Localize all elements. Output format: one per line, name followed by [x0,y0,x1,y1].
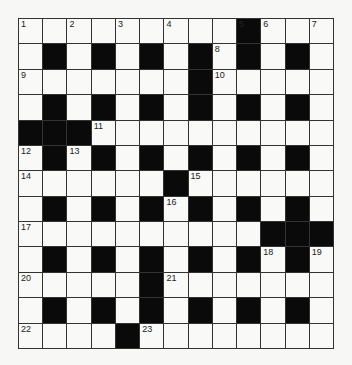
crossword-cell[interactable] [237,324,260,348]
crossword-cell[interactable] [286,121,309,145]
crossword-cell[interactable] [261,197,284,221]
crossword-cell[interactable] [67,247,90,271]
crossword-cell[interactable] [140,70,163,94]
crossword-cell[interactable] [116,197,139,221]
crossword-cell[interactable] [116,70,139,94]
crossword-cell[interactable] [286,324,309,348]
crossword-cell[interactable] [164,324,187,348]
crossword-cell[interactable] [213,247,236,271]
crossword-cell[interactable] [67,44,90,68]
crossword-cell[interactable] [237,70,260,94]
crossword-cell[interactable] [92,324,115,348]
crossword-cell[interactable]: 19 [310,247,333,271]
crossword-cell[interactable]: 2 [67,19,90,43]
crossword-cell[interactable] [43,171,66,195]
crossword-cell[interactable] [189,273,212,297]
crossword-cell[interactable] [261,171,284,195]
crossword-cell[interactable] [116,273,139,297]
crossword-cell[interactable] [116,44,139,68]
crossword-cell[interactable] [67,197,90,221]
crossword-cell[interactable]: 3 [116,19,139,43]
crossword-cell[interactable] [286,19,309,43]
crossword-cell[interactable] [67,171,90,195]
crossword-cell[interactable]: 12 [19,146,42,170]
crossword-cell[interactable] [92,19,115,43]
crossword-cell[interactable] [310,298,333,322]
crossword-cell[interactable] [19,247,42,271]
crossword-cell[interactable] [19,197,42,221]
crossword-cell[interactable] [43,70,66,94]
crossword-cell[interactable] [19,298,42,322]
crossword-cell[interactable]: 4 [164,19,187,43]
crossword-cell[interactable]: 18 [261,247,284,271]
crossword-cell[interactable] [213,222,236,246]
crossword-cell[interactable] [67,298,90,322]
crossword-cell[interactable]: 10 [213,70,236,94]
crossword-cell[interactable] [19,44,42,68]
crossword-cell[interactable] [310,95,333,119]
crossword-cell[interactable] [164,222,187,246]
crossword-cell[interactable] [164,247,187,271]
crossword-cell[interactable] [140,121,163,145]
crossword-cell[interactable] [310,146,333,170]
crossword-cell[interactable]: 8 [213,44,236,68]
crossword-cell[interactable] [140,19,163,43]
crossword-cell[interactable]: 13 [67,146,90,170]
crossword-cell[interactable] [116,171,139,195]
crossword-cell[interactable] [213,273,236,297]
crossword-cell[interactable] [237,171,260,195]
crossword-cell[interactable] [286,273,309,297]
crossword-cell[interactable] [164,44,187,68]
crossword-cell[interactable]: 21 [164,273,187,297]
crossword-cell[interactable]: 6 [261,19,284,43]
crossword-cell[interactable]: 7 [310,19,333,43]
crossword-cell[interactable] [189,19,212,43]
crossword-cell[interactable] [310,273,333,297]
crossword-cell[interactable] [213,121,236,145]
crossword-cell[interactable] [261,324,284,348]
crossword-cell[interactable] [261,95,284,119]
crossword-cell[interactable] [92,171,115,195]
crossword-cell[interactable] [213,197,236,221]
crossword-cell[interactable] [140,222,163,246]
crossword-cell[interactable] [164,298,187,322]
crossword-cell[interactable] [189,222,212,246]
crossword-cell[interactable] [286,171,309,195]
crossword-cell[interactable] [92,70,115,94]
crossword-cell[interactable] [286,70,309,94]
crossword-cell[interactable] [189,324,212,348]
crossword-cell[interactable] [213,95,236,119]
crossword-cell[interactable]: 16 [164,197,187,221]
crossword-cell[interactable] [164,146,187,170]
crossword-cell[interactable] [261,44,284,68]
crossword-cell[interactable] [310,121,333,145]
crossword-cell[interactable] [237,121,260,145]
crossword-cell[interactable] [310,70,333,94]
crossword-cell[interactable] [213,171,236,195]
crossword-cell[interactable] [67,222,90,246]
crossword-cell[interactable] [67,70,90,94]
crossword-cell[interactable]: 15 [189,171,212,195]
crossword-cell[interactable] [213,146,236,170]
crossword-cell[interactable] [67,324,90,348]
crossword-cell[interactable]: 22 [19,324,42,348]
crossword-cell[interactable] [310,171,333,195]
crossword-cell[interactable] [261,121,284,145]
crossword-cell[interactable] [116,298,139,322]
crossword-cell[interactable] [164,70,187,94]
crossword-cell[interactable] [261,146,284,170]
crossword-cell[interactable] [261,70,284,94]
crossword-cell[interactable]: 14 [19,171,42,195]
crossword-cell[interactable] [164,121,187,145]
crossword-cell[interactable]: 20 [19,273,42,297]
crossword-cell[interactable] [92,273,115,297]
crossword-cell[interactable] [310,44,333,68]
crossword-cell[interactable]: 9 [19,70,42,94]
crossword-cell[interactable] [213,324,236,348]
crossword-cell[interactable] [213,19,236,43]
crossword-cell[interactable] [237,222,260,246]
crossword-cell[interactable] [116,146,139,170]
crossword-cell[interactable] [116,247,139,271]
crossword-cell[interactable] [67,95,90,119]
crossword-cell[interactable] [43,324,66,348]
